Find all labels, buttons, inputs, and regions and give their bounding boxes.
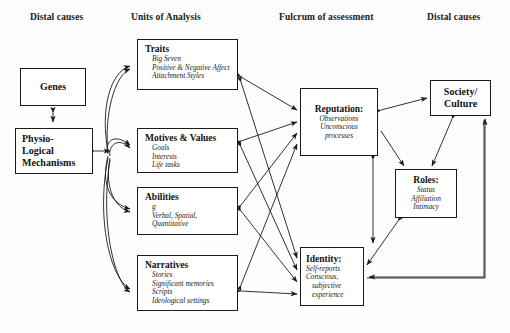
column-header-distal-right: Distal causes: [427, 12, 480, 22]
edge-physio-motives-b: [110, 143, 130, 156]
node-motives-values[interactable]: Motives & Values Goals Interests Life ta…: [137, 128, 238, 173]
edge-physio-traits: [105, 66, 130, 151]
node-physiological-mechanisms-line-1: Physio-: [22, 133, 54, 145]
node-reputation-item-2: processes: [325, 132, 353, 141]
edge-reputation-society: [381, 98, 427, 110]
node-abilities-title: Abilities: [145, 192, 237, 203]
node-abilities[interactable]: Abilities g Verbal, Spatial, Quantitativ…: [137, 187, 238, 235]
edge-narratives-identity: [241, 291, 297, 294]
column-header-distal-left: Distal causes: [30, 12, 83, 22]
edge-roles-identity: [367, 221, 398, 265]
node-genes[interactable]: Genes: [20, 68, 86, 106]
node-society-culture-line-2: Culture: [444, 98, 477, 110]
edge-reputation-roles: [381, 131, 404, 166]
node-abilities-item-2: Quantitative: [145, 220, 237, 229]
node-roles[interactable]: Roles: Status Affiliation Intimacy: [395, 169, 457, 218]
node-narratives-item-3: Ideological settings: [145, 297, 237, 306]
node-physiological-mechanisms-line-2: Logical: [22, 145, 54, 157]
edge-traits-reputation: [241, 77, 297, 110]
node-society-culture[interactable]: Society/ Culture: [430, 80, 491, 116]
edge-motives-reputation: [241, 122, 297, 141]
node-physiological-mechanisms-line-3: Mechanisms: [22, 157, 75, 169]
column-header-units-of-analysis: Units of Analysis: [131, 12, 201, 22]
edge-physio-motives: [107, 139, 130, 154]
node-motives-values-item-2: Life tasks: [145, 161, 237, 170]
node-traits[interactable]: Traits Big Seven Positive & Negative Aff…: [137, 39, 238, 90]
edge-physio-narratives-b: [107, 160, 130, 292]
node-reputation[interactable]: Reputation: Observations Unconscious pro…: [300, 88, 378, 156]
edge-abilities-identity: [241, 211, 297, 282]
node-identity-item-3: experience: [306, 291, 344, 300]
node-reputation-title: Reputation:: [315, 104, 364, 115]
node-physiological-mechanisms[interactable]: Physio- Logical Mechanisms: [15, 128, 93, 174]
edge-society-roles: [432, 119, 452, 166]
node-roles-item-2: Intimacy: [413, 203, 439, 212]
diagram-canvas: Distal causes Units of Analysis Fulcrum …: [0, 0, 510, 333]
node-identity[interactable]: Identity: Self-reports Conscious, subjec…: [300, 247, 364, 306]
column-header-fulcrum-of-assessment: Fulcrum of assessment: [279, 12, 373, 22]
node-traits-item-2: Attachment Styles: [145, 72, 237, 81]
node-society-culture-line-1: Society/: [444, 86, 477, 98]
node-narratives[interactable]: Narratives Stories Significant memories …: [137, 255, 238, 311]
edge-traits-identity: [241, 82, 297, 258]
node-genes-title: Genes: [40, 81, 66, 93]
